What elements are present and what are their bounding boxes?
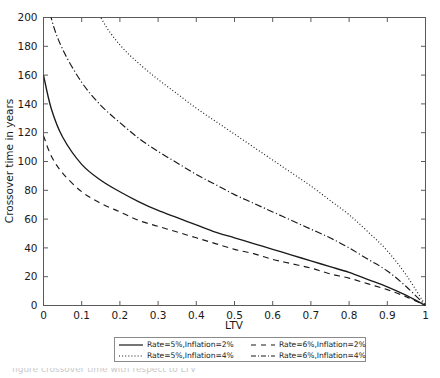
legend-line-sample-solid	[118, 341, 144, 349]
x-tick-label: 0.8	[341, 309, 358, 321]
x-tick-label: 0.7	[303, 309, 320, 321]
x-tick-label: 0.2	[112, 309, 129, 321]
legend: Rate=5%,Inflation=2% Rate=6%,Inflation=2…	[114, 337, 366, 362]
legend-label-3: Rate=6%,Inflation=4%	[279, 350, 366, 361]
y-axis-label: Crossover time in years	[3, 99, 15, 223]
legend-label-2: Rate=5%,Inflation=4%	[147, 350, 234, 361]
y-tick-label: 160	[17, 69, 37, 81]
figure-caption-strip: figure crossover time with respect to LT…	[0, 368, 440, 378]
y-tick-label: 200	[17, 11, 37, 23]
x-tick-label: 1	[422, 309, 429, 321]
y-tick-label: 100	[17, 155, 37, 167]
y-tick-label: 20	[24, 270, 37, 282]
x-tick-label: 0	[40, 309, 47, 321]
legend-line-sample-dashdot	[250, 352, 276, 360]
legend-label-0: Rate=5%,Inflation=2%	[147, 339, 234, 350]
y-tick-label: 60	[24, 213, 37, 225]
legend-item-3: Rate=6%,Inflation=4%	[250, 350, 370, 361]
legend-line-sample-dashed	[250, 341, 276, 349]
axes-frame	[44, 18, 426, 306]
x-axis-label: LTV	[225, 319, 244, 331]
legend-label-1: Rate=6%,Inflation=2%	[279, 339, 366, 350]
y-tick-label: 80	[24, 184, 37, 196]
legend-item-1: Rate=6%,Inflation=2%	[250, 339, 370, 350]
y-tick-label: 140	[17, 98, 37, 110]
x-tick-label: 0.1	[73, 309, 90, 321]
x-tick-label: 0.9	[379, 309, 396, 321]
figure-caption: figure crossover time with respect to LT…	[12, 368, 196, 374]
chart-plot-area: 00.10.20.30.40.50.60.70.80.91 0204060801…	[0, 0, 440, 378]
figure-container: 00.10.20.30.40.50.60.70.80.91 0204060801…	[0, 0, 440, 378]
x-tick-label: 0.4	[188, 309, 205, 321]
y-tick-label: 180	[17, 40, 37, 52]
x-tick-label: 0.3	[150, 309, 167, 321]
y-tick-label: 40	[24, 242, 37, 254]
legend-item-0: Rate=5%,Inflation=2%	[118, 339, 250, 350]
legend-item-2: Rate=5%,Inflation=4%	[118, 350, 250, 361]
legend-line-sample-dotted	[118, 352, 144, 360]
y-tick-label: 120	[17, 126, 37, 138]
y-tick-label: 0	[31, 299, 38, 311]
x-tick-label: 0.6	[264, 309, 281, 321]
